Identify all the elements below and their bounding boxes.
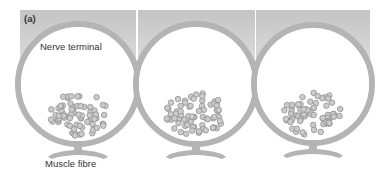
panel-label: (a) xyxy=(24,13,36,24)
panel-2 xyxy=(136,10,256,159)
synapse-diagram xyxy=(0,0,383,181)
muscle-fibre-fold xyxy=(48,142,108,159)
panel-3 xyxy=(254,10,372,158)
muscle-fibre-fold xyxy=(166,142,226,159)
muscle-fibre-label: Muscle fibre xyxy=(45,158,96,169)
muscle-fibre-fold xyxy=(283,141,343,158)
nerve-terminal-label: Nerve terminal xyxy=(40,41,102,52)
